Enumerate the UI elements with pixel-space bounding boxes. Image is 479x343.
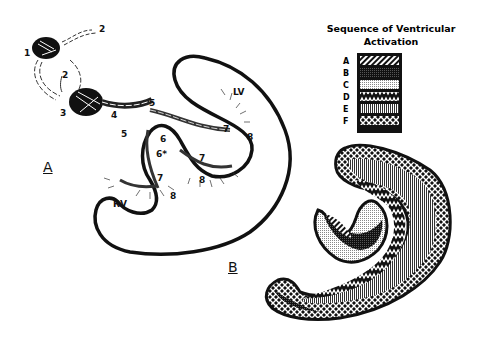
chamber-label-lv: LV [233, 88, 244, 97]
seq-number: 3 [60, 109, 66, 118]
seq-number: 2 [62, 71, 68, 80]
ventricular-activation-diagram [0, 0, 479, 343]
panel-label-b: B [228, 260, 238, 274]
seq-number: 5 [121, 130, 127, 139]
legend-title: Sequence of Ventricular Activation [311, 22, 471, 48]
seq-number: 6 [160, 135, 166, 144]
seq-number: 2 [99, 25, 105, 34]
legend-title-line1: Sequence of Ventricular [311, 22, 471, 35]
seq-number: 6* [156, 150, 167, 159]
legend-title-line2: Activation [311, 35, 471, 48]
seq-number: 8 [247, 133, 253, 142]
seq-number: 7 [223, 125, 229, 134]
legend-letter-e: E [343, 105, 348, 114]
panel-label-a: A [43, 160, 53, 174]
legend-swatches [357, 53, 402, 133]
legend-letter-d: D [343, 93, 350, 102]
seq-number: 4 [111, 111, 117, 120]
legend-letter-c: C [343, 81, 349, 90]
seq-number: 7 [199, 154, 205, 163]
legend-letter-f: F [343, 117, 348, 126]
legend-letter-b: B [343, 69, 349, 78]
activation-map-panel-b [266, 145, 450, 319]
chamber-label-rv: RV [113, 200, 127, 209]
seq-number: 8 [170, 192, 176, 201]
seq-number: 5 [149, 99, 155, 108]
legend-letter-a: A [343, 57, 349, 66]
seq-number: 8 [199, 176, 205, 185]
seq-number: 7 [157, 174, 163, 183]
seq-number: 1 [24, 49, 30, 58]
